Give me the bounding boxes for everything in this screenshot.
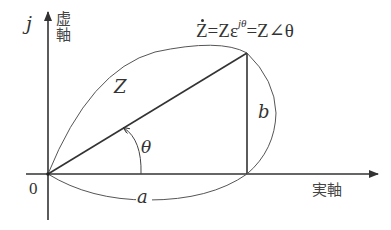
vector-z-label: Z xyxy=(114,78,127,96)
imaginary-unit-label: j xyxy=(26,14,32,33)
formula-exponent: jθ xyxy=(238,17,246,29)
phasor-formula: Z=Zεjθ=Z∠θ xyxy=(196,21,294,40)
formula-equals-2: = xyxy=(246,20,257,41)
z-dot-symbol: Z xyxy=(196,21,208,40)
formula-polar-form: Z∠θ xyxy=(257,20,294,41)
origin-label: 0 xyxy=(29,180,38,197)
formula-equals-1: = xyxy=(208,20,219,41)
theta-angle-arc xyxy=(124,128,141,174)
origin-point xyxy=(46,172,50,176)
imaginary-axis-label: 虚軸 xyxy=(56,11,72,43)
phasor-diagram: j 虚軸 実軸 0 Z θ b a Z=Zεjθ=Z∠θ xyxy=(0,0,391,230)
real-axis-label: 実軸 xyxy=(312,183,342,198)
a-label: a xyxy=(137,188,148,206)
formula-exponential-base: Zε xyxy=(218,20,238,41)
theta-label: θ xyxy=(141,139,151,156)
b-label: b xyxy=(258,103,270,121)
